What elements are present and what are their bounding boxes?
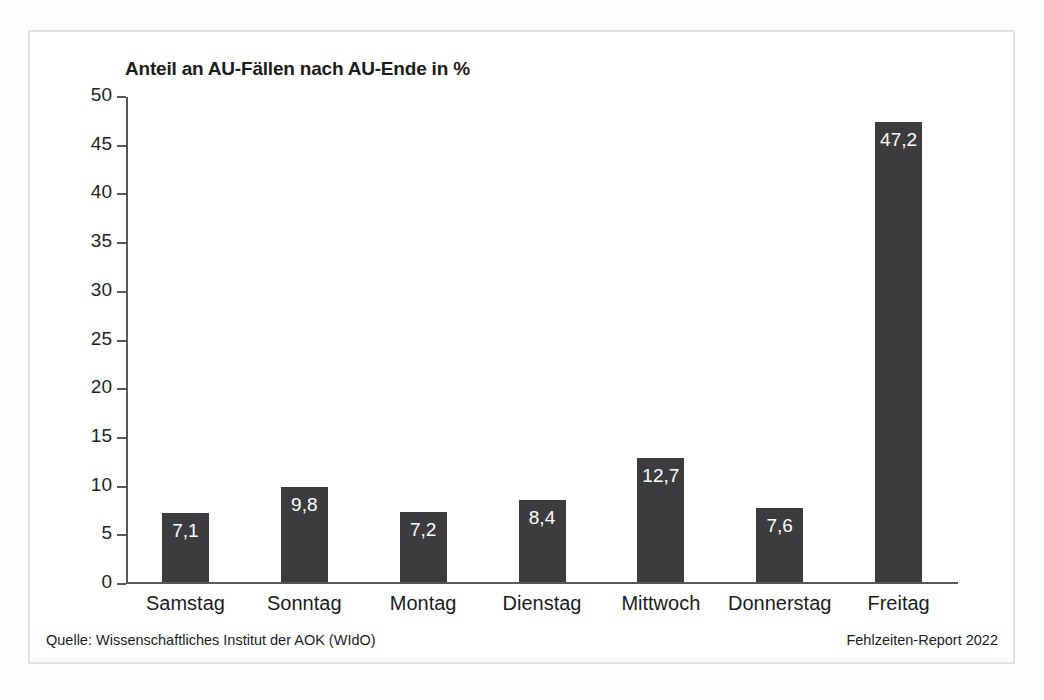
y-tick-label: 40 (91, 181, 112, 203)
bar-value-label: 7,6 (756, 515, 803, 536)
y-tick-label: 45 (91, 133, 112, 155)
y-tick-mark (117, 534, 126, 536)
bar-donnerstag[interactable]: 7,6 (756, 508, 803, 582)
y-tick-label: 0 (101, 571, 112, 593)
bar-mittwoch[interactable]: 12,7 (637, 458, 684, 582)
x-label-montag: Montag (364, 592, 483, 615)
y-tick-mark (117, 96, 126, 98)
plot-area: 05101520253035404550 7,19,87,28,412,77,6… (126, 97, 958, 584)
y-axis-line (126, 97, 128, 584)
y-tick-label: 10 (91, 474, 112, 496)
x-label-dienstag: Dienstag (483, 592, 602, 615)
y-tick-mark (117, 193, 126, 195)
y-tick-mark (117, 437, 126, 439)
x-label-donnerstag: Donnerstag (720, 592, 839, 615)
y-tick-mark (117, 242, 126, 244)
x-label-sonntag: Sonntag (245, 592, 364, 615)
y-tick-label: 30 (91, 279, 112, 301)
y-tick-mark (117, 486, 126, 488)
bar-sonntag[interactable]: 9,8 (281, 487, 328, 582)
y-tick-mark (117, 291, 126, 293)
y-tick-label: 50 (91, 84, 112, 106)
x-axis-line (126, 582, 958, 584)
y-tick-mark (117, 583, 126, 585)
y-tick-label: 20 (91, 376, 112, 398)
y-tick-mark (117, 340, 126, 342)
bar-value-label: 47,2 (875, 129, 922, 150)
y-tick-mark (117, 145, 126, 147)
chart-title: Anteil an AU-Fällen nach AU-Ende in % (125, 58, 470, 80)
source-note: Quelle: Wissenschaftliches Institut der … (46, 632, 376, 648)
report-note: Fehlzeiten-Report 2022 (846, 632, 998, 648)
y-tick-label: 5 (101, 522, 112, 544)
y-tick-label: 25 (91, 328, 112, 350)
figure-canvas: Anteil an AU-Fällen nach AU-Ende in % 05… (0, 0, 1044, 700)
bar-value-label: 7,1 (162, 520, 209, 541)
bar-dienstag[interactable]: 8,4 (519, 500, 566, 582)
y-tick-mark (117, 388, 126, 390)
bar-value-label: 12,7 (637, 465, 684, 486)
y-tick-label: 35 (91, 230, 112, 252)
y-tick-label: 15 (91, 425, 112, 447)
bar-montag[interactable]: 7,2 (400, 512, 447, 582)
bar-value-label: 9,8 (281, 494, 328, 515)
x-label-mittwoch: Mittwoch (601, 592, 720, 615)
bar-freitag[interactable]: 47,2 (875, 122, 922, 582)
x-label-freitag: Freitag (839, 592, 958, 615)
bar-samstag[interactable]: 7,1 (162, 513, 209, 582)
bar-value-label: 7,2 (400, 519, 447, 540)
bar-value-label: 8,4 (519, 507, 566, 528)
x-label-samstag: Samstag (126, 592, 245, 615)
